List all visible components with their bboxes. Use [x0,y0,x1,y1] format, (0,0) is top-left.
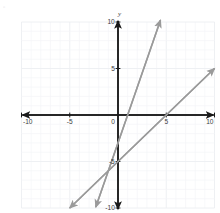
y-tick-label: 10 [107,18,115,25]
x-tick-label: 0 [111,118,115,125]
x-tick-label: -5 [67,118,73,125]
y-tick-label: -5 [109,158,115,165]
graph-line-start-arrow [96,20,161,207]
y-tick-label: 5 [111,65,115,72]
x-tick-label: 5 [164,118,168,125]
x-tick-label: -10 [23,118,33,125]
graph-line-start-arrow [70,69,215,209]
graph-figure: ▫ -10-50510-10-5510y [0,0,220,213]
y-axis-label: y [117,10,122,18]
coordinate-plane: -10-50510-10-5510y [0,0,220,213]
y-tick-label: -10 [105,204,115,211]
x-tick-label: 10 [206,118,214,125]
